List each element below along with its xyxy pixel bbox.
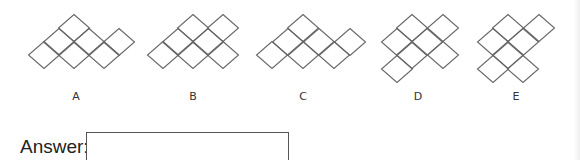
diamond-cell — [288, 15, 319, 42]
diamond-cell — [524, 15, 555, 42]
diamond-cell — [478, 29, 509, 56]
diamond-cell — [148, 42, 179, 69]
diamond-cell — [382, 29, 413, 56]
diamond-cell — [208, 15, 239, 42]
option-label-c: C — [288, 90, 318, 103]
diamond-cell — [29, 42, 60, 69]
diamond-cell — [89, 42, 120, 69]
diamond-cell — [104, 29, 135, 56]
figure-option-c — [257, 15, 366, 69]
diamond-cell — [163, 29, 194, 56]
figure-option-a — [29, 15, 135, 69]
figure-option-e — [478, 15, 555, 83]
diamond-cell — [508, 29, 539, 56]
diamond-cell — [304, 29, 335, 56]
option-label-b: B — [178, 90, 208, 103]
diamond-cell — [178, 42, 209, 69]
figure-option-d — [382, 15, 459, 83]
diamond-cell — [412, 29, 443, 56]
diamond-cell — [428, 42, 459, 69]
option-label-e: E — [501, 90, 531, 103]
diamond-cell — [397, 42, 428, 69]
diamond-cell — [257, 42, 288, 69]
figure-option-b — [148, 15, 239, 69]
diamond-cell — [319, 42, 350, 69]
diamond-cell — [273, 29, 304, 56]
diamond-cell — [74, 29, 105, 56]
diamond-cell — [508, 56, 539, 83]
diamond-cell — [44, 29, 75, 56]
answer-label: Answer: — [20, 136, 89, 158]
diamond-cell — [493, 15, 524, 42]
diamond-cell — [59, 42, 90, 69]
diamond-cell — [59, 15, 90, 42]
diamond-cell — [193, 29, 224, 56]
option-label-d: D — [403, 90, 433, 103]
answer-input[interactable] — [86, 132, 289, 160]
diamond-cell — [478, 56, 509, 83]
option-label-a: A — [61, 90, 91, 103]
diamond-cell — [335, 29, 366, 56]
diamond-cell — [382, 56, 413, 83]
diamond-cell — [288, 42, 319, 69]
diamond-cell — [397, 15, 428, 42]
diamond-cell — [428, 15, 459, 42]
diamond-cell — [493, 42, 524, 69]
diamond-cell — [208, 42, 239, 69]
diamond-cell — [178, 15, 209, 42]
